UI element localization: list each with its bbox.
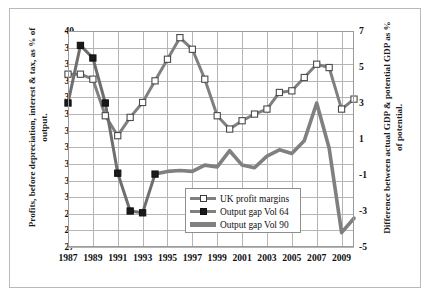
filled-square-line-icon	[190, 206, 216, 217]
data-point-marker	[214, 113, 220, 119]
series-line-1	[68, 45, 155, 212]
data-point-marker	[326, 64, 332, 70]
data-point-marker	[164, 56, 170, 62]
data-point-marker	[351, 96, 357, 102]
thick-line-icon	[190, 219, 216, 230]
data-point-marker	[115, 170, 121, 176]
right-axis-title: Difference between actual GDP & potentia…	[382, 20, 405, 235]
gridline-horizontal	[68, 247, 354, 248]
data-point-marker	[102, 113, 108, 119]
right-tick-label: -1	[359, 169, 381, 180]
right-tick-label: -5	[359, 241, 381, 252]
data-point-marker	[65, 100, 71, 106]
legend-item-output-gap-vol-90: Output gap Vol 90	[190, 218, 296, 231]
data-point-marker	[90, 55, 96, 61]
data-point-marker	[140, 210, 146, 216]
right-tick-label: 3	[359, 97, 381, 108]
data-point-marker	[264, 106, 270, 112]
data-point-marker	[140, 99, 146, 105]
data-point-marker	[338, 106, 344, 112]
data-point-marker	[189, 46, 195, 52]
data-point-marker	[227, 126, 233, 132]
chart-figure: Profits, before depreciation, interest &…	[0, 0, 431, 297]
left-axis-title: Profits, before depreciation, interest &…	[27, 20, 50, 235]
data-point-marker	[115, 133, 121, 139]
data-point-marker	[301, 74, 307, 80]
data-point-marker	[239, 118, 245, 124]
data-point-marker	[177, 35, 183, 41]
data-point-marker	[202, 76, 208, 82]
right-tick-label: 5	[359, 61, 381, 72]
right-tick-label: 1	[359, 133, 381, 144]
right-tick-label: -3	[359, 205, 381, 216]
right-tick-label: 7	[359, 25, 381, 36]
legend-item-output-gap-vol-64: Output gap Vol 64	[190, 205, 296, 218]
data-point-marker	[77, 42, 83, 48]
legend-label-0: UK profit margins	[220, 193, 289, 205]
data-point-marker	[289, 88, 295, 94]
legend-item-uk-profit-margins: UK profit margins	[190, 192, 296, 205]
data-point-marker	[102, 100, 108, 106]
chart-legend: UK profit margins Output gap Vol 64 Outp…	[185, 188, 301, 233]
legend-label-1: Output gap Vol 64	[220, 206, 289, 218]
legend-label-2: Output gap Vol 90	[220, 219, 289, 231]
data-point-marker	[127, 208, 133, 214]
data-point-marker	[251, 111, 257, 117]
x-tick-label: 2009	[325, 252, 359, 263]
data-point-marker	[152, 171, 158, 177]
data-point-marker	[276, 89, 282, 95]
data-point-marker	[77, 71, 83, 77]
data-point-marker	[65, 71, 71, 77]
data-point-marker	[90, 76, 96, 82]
data-point-marker	[127, 114, 133, 120]
data-point-marker	[152, 78, 158, 84]
data-point-marker	[314, 61, 320, 67]
open-square-line-icon	[190, 193, 216, 204]
